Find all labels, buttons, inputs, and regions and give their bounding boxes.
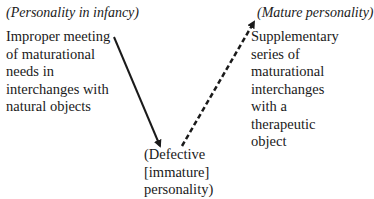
dashed-arrow bbox=[182, 22, 254, 146]
solid-arrow bbox=[114, 37, 160, 146]
